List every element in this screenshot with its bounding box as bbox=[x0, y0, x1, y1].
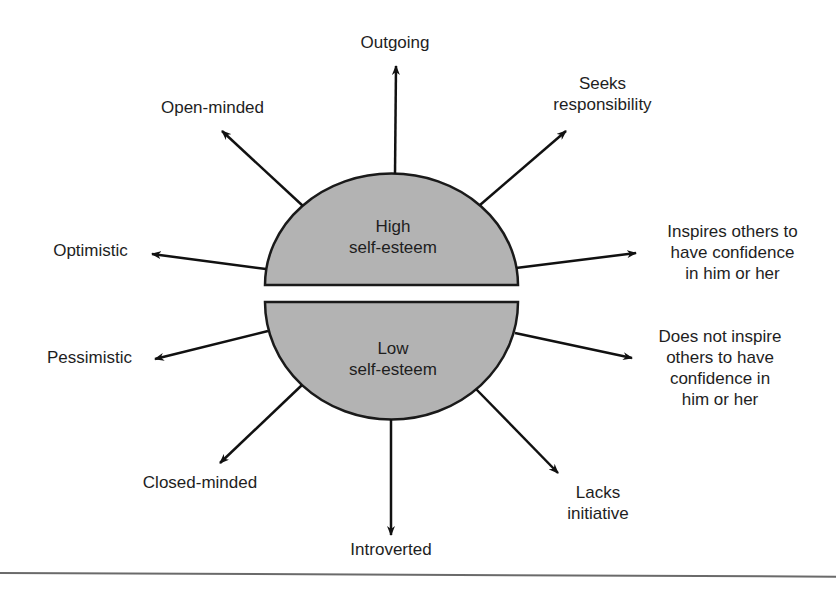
arrow-closed-minded bbox=[220, 385, 302, 463]
arrow-pessimistic bbox=[155, 331, 268, 359]
trait-closed-minded: Closed-minded bbox=[120, 472, 280, 493]
trait-optimistic: Optimistic bbox=[38, 240, 143, 261]
self-esteem-diagram bbox=[0, 0, 836, 589]
low-self-esteem-label: Low self-esteem bbox=[331, 338, 455, 380]
trait-lacks-initiative: Lacks initiative bbox=[548, 482, 648, 524]
arrow-seeks-responsibility bbox=[480, 131, 566, 205]
arrow-outgoing bbox=[395, 66, 396, 174]
trait-does-not-inspire: Does not inspire others to have confiden… bbox=[635, 326, 805, 410]
high-self-esteem-label: High self-esteem bbox=[331, 216, 455, 258]
arrow-does-not-inspire bbox=[515, 333, 632, 358]
trait-introverted: Introverted bbox=[326, 539, 456, 560]
arrow-inspires-others bbox=[516, 253, 636, 268]
trait-outgoing: Outgoing bbox=[345, 32, 445, 53]
arrow-open-minded bbox=[222, 131, 303, 206]
trait-pessimistic: Pessimistic bbox=[32, 347, 147, 368]
arrow-lacks-initiative bbox=[476, 389, 558, 473]
trait-seeks-responsibility: Seeks responsibility bbox=[540, 73, 665, 115]
arrow-optimistic bbox=[152, 254, 266, 269]
trait-open-minded: Open-minded bbox=[140, 97, 285, 118]
trait-inspires-others: Inspires others to have confidence in hi… bbox=[640, 221, 825, 284]
